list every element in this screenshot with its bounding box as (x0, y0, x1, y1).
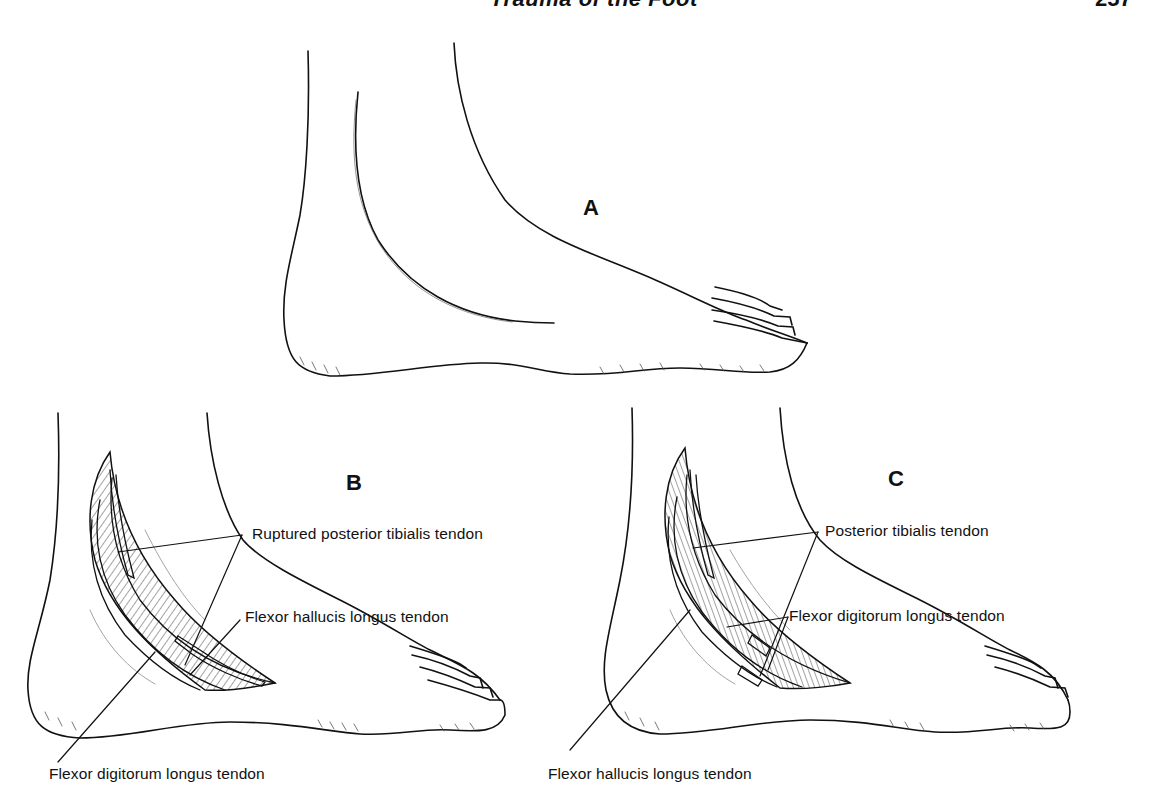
foot-illustration (0, 0, 1159, 806)
panel-letter-c: C (888, 466, 904, 492)
label-flexor-digitorum-longus-c: Flexor digitorum longus tendon (789, 607, 1005, 625)
label-ruptured-posterior-tibialis: Ruptured posterior tibialis tendon (252, 525, 483, 543)
label-flexor-digitorum-longus-b: Flexor digitorum longus tendon (49, 765, 265, 783)
panel-letter-b: B (346, 470, 362, 496)
label-flexor-hallucis-longus-b: Flexor hallucis longus tendon (245, 608, 449, 626)
panel-b-foot (28, 413, 505, 762)
label-flexor-hallucis-longus-c: Flexor hallucis longus tendon (548, 765, 752, 783)
panel-a-foot (284, 43, 807, 376)
panel-letter-a: A (583, 195, 599, 221)
label-posterior-tibialis: Posterior tibialis tendon (825, 522, 989, 540)
panel-c-foot (570, 408, 1070, 750)
